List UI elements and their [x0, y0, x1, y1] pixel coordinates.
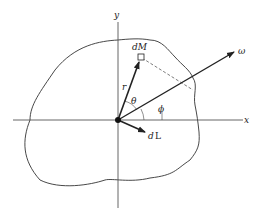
rigid-body-diagram: y x dM r ω θ ϕ d L — [0, 0, 260, 214]
body-outline — [25, 39, 199, 186]
phi-arc — [141, 109, 144, 120]
mass-element-square — [138, 54, 144, 60]
angular-momentum-label-L: L — [155, 131, 161, 141]
x-axis-label: x — [244, 115, 249, 125]
projection-dashed-line — [142, 58, 193, 90]
position-vector-label: r — [122, 82, 127, 92]
angular-momentum-vector — [118, 120, 145, 132]
y-axis-label: y — [113, 10, 120, 20]
phi-label: ϕ — [158, 104, 164, 114]
mass-element-label: dM — [132, 42, 148, 52]
angular-momentum-label-d: d — [148, 131, 154, 141]
angular-velocity-vector — [118, 52, 234, 120]
angular-velocity-label: ω — [238, 46, 246, 56]
origin-point — [115, 117, 121, 123]
theta-label: θ — [131, 96, 137, 106]
